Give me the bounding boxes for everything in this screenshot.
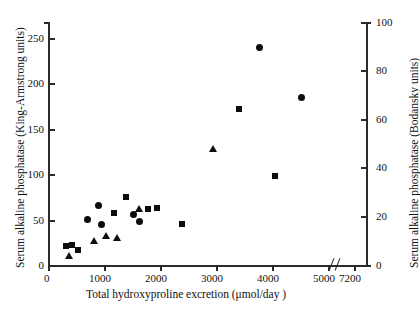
data-point-square — [123, 194, 129, 200]
data-point-square — [154, 205, 160, 211]
data-point-circle — [256, 44, 263, 51]
data-point-circle — [95, 202, 102, 209]
data-point-circle — [98, 221, 105, 228]
data-point-triangle — [209, 145, 217, 152]
data-point-triangle — [102, 232, 110, 239]
data-point-square — [236, 106, 242, 112]
data-point-triangle — [65, 252, 73, 259]
data-point-square — [179, 221, 185, 227]
data-point-circle — [298, 94, 305, 101]
data-point-square — [75, 247, 81, 253]
data-point-circle — [84, 216, 91, 223]
data-point-square — [272, 173, 278, 179]
data-point-triangle — [135, 205, 143, 212]
data-point-triangle — [113, 234, 121, 241]
data-point-circle — [136, 218, 143, 225]
data-point-triangle — [90, 237, 98, 244]
data-point-square — [111, 210, 117, 216]
data-point-square — [145, 206, 151, 212]
